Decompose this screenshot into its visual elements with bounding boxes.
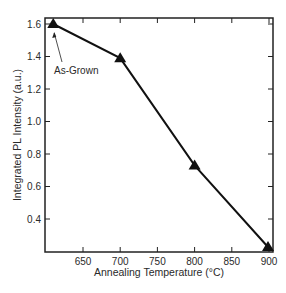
plot-frame xyxy=(45,18,273,252)
pl-intensity-chart: 650700750800850900 0.40.60.81.01.21.41.6… xyxy=(0,0,286,293)
x-tick-label: 900 xyxy=(261,256,278,267)
y-axis-label: Integrated PL Intensity (a.u.) xyxy=(11,69,23,201)
y-tick-label: 1.0 xyxy=(27,116,41,127)
y-tick-label: 1.2 xyxy=(27,84,41,95)
x-axis-label: Annealing Temperature (°C) xyxy=(94,266,224,278)
y-tick-label: 0.8 xyxy=(27,149,41,160)
y-tick-label: 0.6 xyxy=(27,181,41,192)
triangle-marker xyxy=(47,18,59,28)
y-tick-label: 1.4 xyxy=(27,51,41,62)
series-line xyxy=(53,24,268,247)
y-axis-ticks: 0.40.60.81.01.21.41.6 xyxy=(27,19,273,225)
annotation-as-grown: As-Grown xyxy=(52,32,98,76)
annotation-label: As-Grown xyxy=(54,65,98,76)
x-tick-label: 650 xyxy=(75,256,92,267)
triangle-marker xyxy=(114,52,126,62)
x-axis-ticks: 650700750800850900 xyxy=(75,18,278,267)
y-tick-label: 0.4 xyxy=(27,214,41,225)
y-tick-label: 1.6 xyxy=(27,19,41,30)
x-tick-label: 850 xyxy=(223,256,240,267)
data-series xyxy=(47,18,274,251)
